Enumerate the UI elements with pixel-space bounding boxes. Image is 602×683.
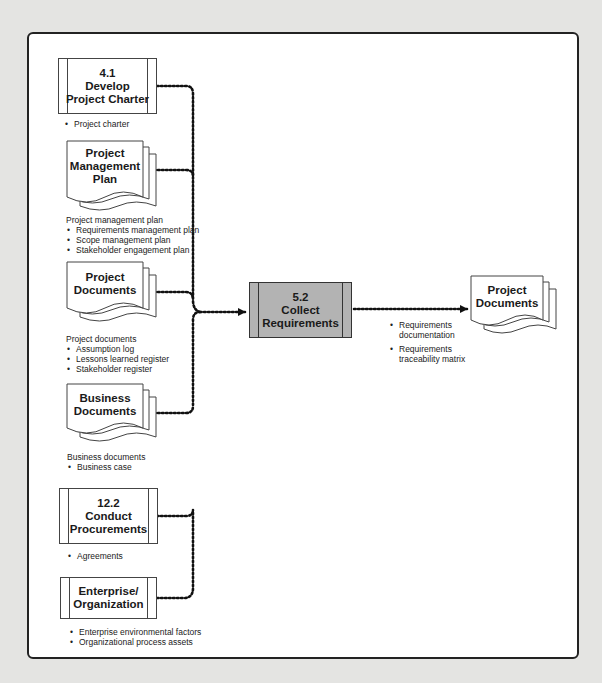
process-collect-requirements[interactable]: 5.2 Collect Requirements <box>249 282 352 338</box>
process-conduct-procurements[interactable]: 12.2 Conduct Procurements <box>59 488 158 544</box>
process-develop-project-charter[interactable]: 4.1 Develop Project Charter <box>58 58 157 114</box>
note-heading: Business documents <box>67 452 145 462</box>
document-project-documents[interactable]: Project Documents <box>67 266 143 302</box>
note-enterprise: Enterprise environmental factors Organiz… <box>69 627 201 647</box>
process-number: 5.2 <box>262 291 339 304</box>
note-heading: Project documents <box>66 334 169 344</box>
process-title: Conduct <box>70 510 147 523</box>
document-title: Business <box>74 392 137 405</box>
note-business-documents: Business documents Business case <box>67 452 145 472</box>
document-business-documents[interactable]: Business Documents <box>67 388 143 422</box>
note-pm-plan: Project management plan Requirements man… <box>66 215 199 255</box>
document-title: Management <box>70 160 140 173</box>
process-title: Develop <box>66 80 149 93</box>
note-heading: Project management plan <box>66 215 199 225</box>
process-title: Collect <box>262 304 339 317</box>
document-title: Project <box>70 147 140 160</box>
document-title: Plan <box>70 173 140 186</box>
document-project-management-plan[interactable]: Project Management Plan <box>67 143 143 189</box>
enterprise-organization[interactable]: Enterprise/ Organization <box>60 577 157 619</box>
document-title: Documents <box>476 297 539 310</box>
process-title: Organization <box>73 598 143 611</box>
process-title: Enterprise/ <box>73 585 143 598</box>
process-title: Project Charter <box>66 93 149 106</box>
process-title: Procurements <box>70 523 147 536</box>
process-number: 4.1 <box>66 67 149 80</box>
document-title: Documents <box>74 405 137 418</box>
process-title: Requirements <box>262 317 339 330</box>
note-develop-charter: Project charter <box>64 119 129 129</box>
document-title: Documents <box>74 284 137 297</box>
note-project-documents: Project documents Assumption log Lessons… <box>66 334 169 374</box>
note-outputs: Requirementsdocumentation Requirementstr… <box>389 320 465 364</box>
document-output-project-documents[interactable]: Project Documents <box>471 280 543 314</box>
document-title: Project <box>74 271 137 284</box>
note-procurements: Agreements <box>67 551 123 561</box>
document-title: Project <box>476 284 539 297</box>
process-number: 12.2 <box>70 497 147 510</box>
